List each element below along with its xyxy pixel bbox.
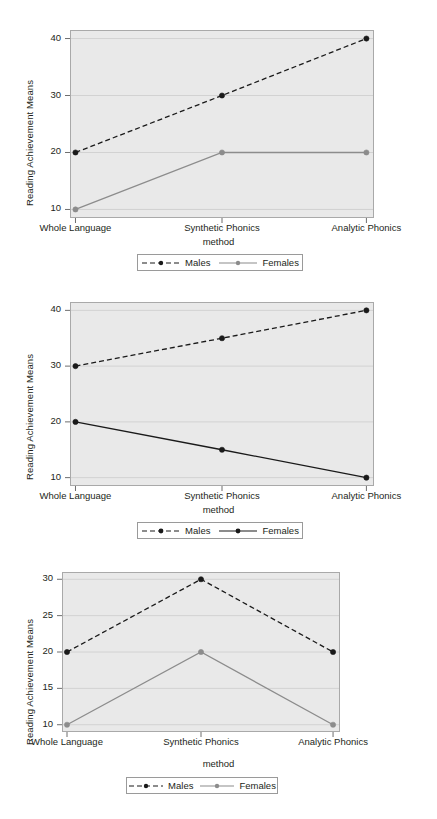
legend-item-females: Females bbox=[199, 780, 275, 791]
legend: Males Females bbox=[137, 254, 303, 271]
legend-label-males: Males bbox=[168, 780, 193, 791]
y-axis-tick-label: 10 bbox=[21, 718, 53, 729]
x-axis-title: method bbox=[0, 504, 437, 515]
dashed-line-with-dot-marker-icon bbox=[128, 781, 164, 791]
x-axis-title: method bbox=[0, 236, 437, 247]
chart-panel-3: Reading Achievement Means method Males F… bbox=[0, 550, 437, 819]
legend-label-females: Females bbox=[262, 525, 298, 536]
y-axis-tick-label: 20 bbox=[29, 145, 61, 156]
x-axis-title: method bbox=[0, 758, 437, 769]
x-axis-tick-label: Synthetic Phonics bbox=[131, 736, 271, 747]
dashed-line-with-dot-marker-icon bbox=[141, 526, 181, 536]
y-axis-tick-label: 40 bbox=[29, 303, 61, 314]
x-axis-tick-label: Analytic Phonics bbox=[296, 222, 436, 233]
y-axis-tick-label: 30 bbox=[29, 359, 61, 370]
y-axis-tick-label: 30 bbox=[29, 89, 61, 100]
x-axis-tick-label: Synthetic Phonics bbox=[152, 490, 292, 501]
legend-item-males: Males bbox=[141, 525, 210, 536]
legend-label-females: Females bbox=[239, 780, 275, 791]
legend-label-females: Females bbox=[262, 257, 298, 268]
legend-item-females: Females bbox=[218, 257, 298, 268]
y-axis-tick-label: 15 bbox=[21, 681, 53, 692]
legend-item-males: Males bbox=[141, 257, 210, 268]
chart-panel-1: Reading Achievement Means method Males F… bbox=[0, 0, 437, 278]
y-axis-tick-label: 25 bbox=[21, 609, 53, 620]
x-axis-tick-label: Analytic Phonics bbox=[296, 490, 436, 501]
dashed-line-with-dot-marker-icon bbox=[141, 258, 181, 268]
x-axis-tick-label: Whole Language bbox=[5, 222, 145, 233]
legend: Males Females bbox=[126, 777, 278, 794]
legend: Males Females bbox=[137, 522, 303, 539]
y-axis-tick-label: 20 bbox=[29, 415, 61, 426]
y-axis-tick-label: 40 bbox=[29, 32, 61, 43]
x-axis-tick-label: Analytic Phonics bbox=[263, 736, 403, 747]
legend-item-males: Males bbox=[128, 780, 193, 791]
legend-item-females: Females bbox=[218, 525, 298, 536]
y-axis-tick-label: 30 bbox=[21, 572, 53, 583]
legend-label-males: Males bbox=[185, 525, 210, 536]
chart-panel-2: Reading Achievement Means method Males F… bbox=[0, 278, 437, 550]
legend-label-males: Males bbox=[185, 257, 210, 268]
x-axis-tick-label: Whole Language bbox=[5, 490, 145, 501]
figure-container: Reading Achievement Means method Males F… bbox=[0, 0, 437, 819]
y-axis-tick-label: 10 bbox=[29, 471, 61, 482]
y-axis-tick-label: 10 bbox=[29, 202, 61, 213]
x-axis-tick-label: Whole Language bbox=[0, 736, 137, 747]
solid-line-with-dot-marker-icon bbox=[218, 258, 258, 268]
solid-line-with-dot-marker-icon bbox=[218, 526, 258, 536]
solid-line-with-dot-marker-icon bbox=[199, 781, 235, 791]
y-axis-tick-label: 20 bbox=[21, 645, 53, 656]
x-axis-tick-label: Synthetic Phonics bbox=[152, 222, 292, 233]
